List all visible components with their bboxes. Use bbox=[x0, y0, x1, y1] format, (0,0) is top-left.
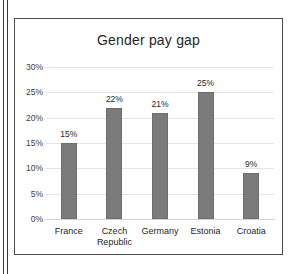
bar[interactable] bbox=[61, 143, 77, 219]
y-axis-tick-label: 10% bbox=[15, 164, 43, 173]
bar-series: 15%France22%CzechRepublic21%Germany25%Es… bbox=[46, 19, 274, 254]
plot-area: 30%25%20%15%10%5%0% 15%France22%CzechRep… bbox=[15, 19, 282, 254]
page-margin-rule-inner bbox=[7, 0, 8, 274]
bar[interactable] bbox=[152, 113, 168, 219]
x-axis-category-label: Croatia bbox=[220, 226, 282, 237]
y-axis-tick-label: 0% bbox=[15, 215, 43, 224]
bar[interactable] bbox=[106, 108, 122, 219]
x-axis-category-label-line: Republic bbox=[83, 237, 145, 248]
y-axis-tick-label: 5% bbox=[15, 189, 43, 198]
y-axis-tick-label: 25% bbox=[15, 88, 43, 97]
bar[interactable] bbox=[198, 92, 214, 219]
bar-value-label: 9% bbox=[231, 160, 271, 169]
page-margin-rule-outer bbox=[3, 0, 4, 274]
chart-panel: Gender pay gap 30%25%20%15%10%5%0% 15%Fr… bbox=[14, 18, 283, 255]
bar-value-label: 15% bbox=[49, 130, 89, 139]
bar-value-label: 25% bbox=[186, 79, 226, 88]
y-axis-tick-label: 20% bbox=[15, 113, 43, 122]
bar-group[interactable]: 15%France bbox=[46, 19, 92, 254]
bar-group[interactable]: 9%Croatia bbox=[228, 19, 274, 254]
bar-value-label: 21% bbox=[140, 100, 180, 109]
bar-group[interactable]: 21%Germany bbox=[137, 19, 183, 254]
bar[interactable] bbox=[243, 173, 259, 219]
bar-group[interactable]: 25%Estonia bbox=[183, 19, 229, 254]
x-axis-category-label-line: Croatia bbox=[220, 226, 282, 237]
y-axis-tick-label: 30% bbox=[15, 63, 43, 72]
bar-group[interactable]: 22%CzechRepublic bbox=[92, 19, 138, 254]
bar-value-label: 22% bbox=[94, 95, 134, 104]
y-axis-tick-label: 15% bbox=[15, 139, 43, 148]
